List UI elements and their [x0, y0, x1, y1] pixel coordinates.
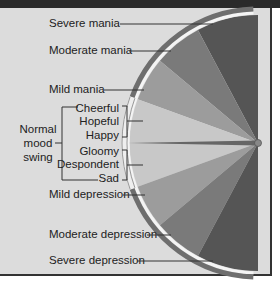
mood-sad: Sad [99, 172, 119, 184]
label-severe-mania: Severe mania [49, 17, 121, 29]
mood-diagram: Severe mania Moderate mania Mild mania N… [0, 0, 280, 284]
mood-hopeful: Hopeful [79, 115, 119, 127]
label-severe-depression: Severe depression [49, 254, 145, 266]
mood-despondent: Despondent [57, 158, 120, 170]
label-normal-1: Normal [19, 123, 56, 135]
label-moderate-mania: Moderate mania [49, 44, 133, 56]
label-mild-depression: Mild depression [49, 188, 130, 200]
label-moderate-depression: Moderate depression [49, 228, 157, 240]
mood-happy: Happy [86, 129, 119, 141]
label-mild-mania: Mild mania [49, 83, 105, 95]
label-normal-3: swing [23, 151, 52, 163]
mood-cheerful: Cheerful [76, 102, 119, 114]
label-normal-2: mood [24, 137, 53, 149]
mood-gloomy: Gloomy [79, 145, 119, 157]
pivot [255, 140, 262, 147]
